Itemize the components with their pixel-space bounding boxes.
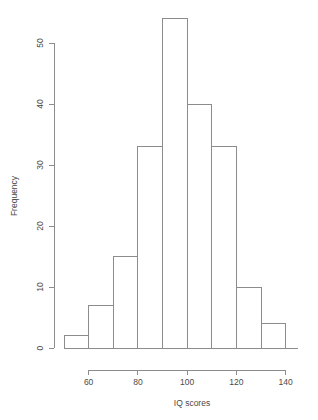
- histogram-bars: [64, 19, 298, 348]
- histogram-bar: [113, 257, 138, 349]
- y-axis-tick-label: 30: [35, 160, 45, 170]
- y-axis-tick-label: 20: [35, 221, 45, 231]
- histogram-bar: [163, 19, 188, 348]
- histogram-bar: [187, 104, 212, 348]
- x-axis-tick-label: 60: [84, 377, 94, 387]
- y-axis-tick-label: 10: [35, 282, 45, 292]
- histogram-bar: [138, 147, 163, 348]
- x-axis-title: IQ scores: [174, 398, 210, 408]
- x-axis-ticks: 6080100120140: [84, 370, 293, 387]
- x-axis-tick-label: 120: [229, 377, 243, 387]
- histogram-bar: [261, 324, 286, 348]
- y-axis-tick-label: 0: [35, 345, 45, 350]
- histogram-bar: [236, 287, 261, 348]
- histogram-plot: 01020304050 6080100120140 Frequency IQ s…: [0, 0, 318, 420]
- y-axis-tick-label: 40: [35, 99, 45, 109]
- y-axis-ticks: 01020304050: [35, 38, 54, 350]
- histogram-bar: [212, 147, 237, 348]
- plot-canvas: 01020304050 6080100120140 Frequency IQ s…: [0, 0, 318, 420]
- y-axis-tick-label: 50: [35, 38, 45, 48]
- x-axis-tick-label: 140: [279, 377, 293, 387]
- y-axis-title: Frequency: [9, 175, 19, 216]
- x-axis-tick-label: 80: [133, 377, 143, 387]
- histogram-bar: [89, 305, 114, 348]
- x-axis-tick-label: 100: [180, 377, 194, 387]
- x-axis: 6080100120140: [84, 370, 293, 387]
- histogram-bar: [64, 336, 89, 348]
- y-axis: 01020304050: [35, 38, 54, 350]
